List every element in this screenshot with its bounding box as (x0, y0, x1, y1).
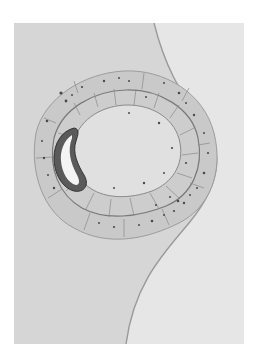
texture-overlay (14, 23, 244, 344)
illustration-plate (14, 23, 244, 344)
histology-illustration (14, 23, 244, 344)
